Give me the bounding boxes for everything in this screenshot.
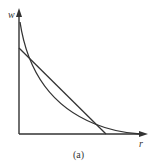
diagram-figure: w r (a) [0,0,160,167]
x-axis-arrow-icon [139,131,148,137]
straight-line [19,48,106,134]
y-axis-label: w [8,9,15,20]
x-axis-label: r [139,138,143,149]
y-axis-arrow-icon [16,8,22,17]
figure-caption: (a) [73,149,84,161]
convex-curve [20,22,140,134]
